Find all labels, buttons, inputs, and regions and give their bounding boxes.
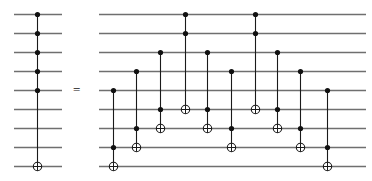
circuit-identity-figure: = bbox=[0, 0, 372, 181]
toffoli-9-control-dot-wire-7 bbox=[298, 126, 303, 131]
toffoli-2-control-dot-wire-7 bbox=[134, 126, 139, 131]
toffoli-3-control-dot-wire-6 bbox=[158, 107, 163, 112]
c5-not-control-dot-wire-1 bbox=[35, 12, 40, 17]
toffoli-3-control-dot-wire-3 bbox=[158, 50, 163, 55]
toffoli-8-control-dot-wire-3 bbox=[275, 50, 280, 55]
c5-not-control-dot-wire-3 bbox=[35, 50, 40, 55]
c5-not-control-dot-wire-5 bbox=[35, 88, 40, 93]
toffoli-4-control-dot-wire-2 bbox=[183, 31, 188, 36]
toffoli-5-control-dot-wire-3 bbox=[205, 50, 210, 55]
circuit-canvas bbox=[0, 0, 372, 181]
toffoli-4-control-dot-wire-1 bbox=[183, 12, 188, 17]
toffoli-1-control-dot-wire-5 bbox=[111, 88, 116, 93]
equals-sign: = bbox=[73, 83, 80, 96]
toffoli-7-control-dot-wire-1 bbox=[253, 12, 258, 17]
toffoli-7-control-dot-wire-2 bbox=[253, 31, 258, 36]
c5-not-control-dot-wire-2 bbox=[35, 31, 40, 36]
toffoli-8-control-dot-wire-6 bbox=[275, 107, 280, 112]
toffoli-6-control-dot-wire-7 bbox=[229, 126, 234, 131]
toffoli-1-control-dot-wire-8 bbox=[111, 145, 116, 150]
c5-not-control-dot-wire-4 bbox=[35, 69, 40, 74]
toffoli-2-control-dot-wire-4 bbox=[134, 69, 139, 74]
toffoli-10-control-dot-wire-8 bbox=[325, 145, 330, 150]
toffoli-9-control-dot-wire-4 bbox=[298, 69, 303, 74]
toffoli-5-control-dot-wire-6 bbox=[205, 107, 210, 112]
toffoli-6-control-dot-wire-4 bbox=[229, 69, 234, 74]
toffoli-10-control-dot-wire-5 bbox=[325, 88, 330, 93]
